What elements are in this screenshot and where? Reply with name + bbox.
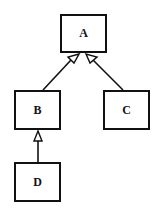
class-node-a[interactable]: A: [60, 14, 107, 53]
class-node-b[interactable]: B: [14, 90, 61, 130]
edge-c-to-a: [86, 54, 123, 90]
edge-d-to-b: [34, 131, 42, 162]
hollow-triangle-arrowhead-icon: [34, 131, 42, 141]
class-node-d-label: D: [33, 175, 42, 190]
class-node-b-label: B: [33, 103, 41, 118]
class-node-c-label: C: [122, 103, 131, 118]
edge-b-to-a: [43, 54, 79, 90]
class-node-d[interactable]: D: [14, 162, 61, 202]
class-node-a-label: A: [79, 26, 88, 41]
class-node-c[interactable]: C: [103, 90, 150, 130]
